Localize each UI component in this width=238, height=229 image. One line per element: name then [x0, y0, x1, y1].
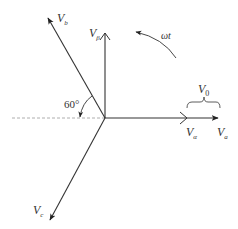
label-vc: Vc: [33, 203, 44, 219]
vector-vc-line: [50, 118, 105, 220]
label-vbeta: Vβ: [89, 26, 100, 42]
label-va: Va: [217, 125, 228, 141]
label-60-degree: 60°: [64, 98, 79, 110]
label-v0: V0: [198, 82, 209, 98]
label-valpha: Vα: [186, 125, 197, 141]
phasor-diagram: Vb Vβ ωt 60° V0 Vα Va Vc: [0, 0, 238, 229]
v0-brace: [187, 97, 220, 108]
label-omega-t: ωt: [161, 30, 171, 41]
label-vb: Vb: [57, 11, 68, 27]
angle-60-arc: [80, 96, 92, 117]
